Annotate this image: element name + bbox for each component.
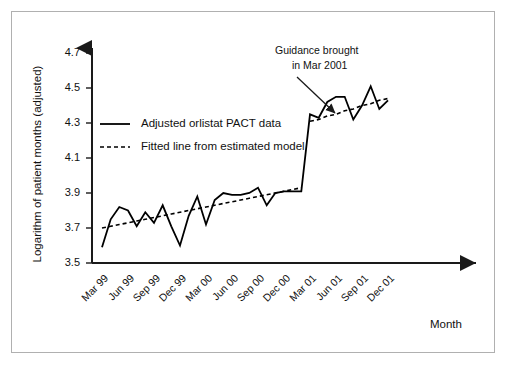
- y-tick-label: 4.3: [52, 116, 80, 128]
- legend-label-fitted: Fitted line from estimated model: [141, 140, 305, 152]
- chart-figure: Logarithm of patient months (adjusted) M…: [0, 0, 510, 367]
- y-tick-label: 3.5: [52, 256, 80, 268]
- guidance-annotation-line1: Guidance brought: [275, 44, 358, 56]
- guidance-annotation-line2: in Mar 2001: [292, 59, 347, 71]
- y-tick-label: 3.9: [52, 186, 80, 198]
- y-tick-label: 4.1: [52, 151, 80, 163]
- legend-label-observed: Adjusted orlistat PACT data: [141, 117, 281, 129]
- guidance-annotation-arrow: [297, 77, 335, 113]
- y-tick-label: 3.7: [52, 221, 80, 233]
- y-tick-label: 4.5: [52, 81, 80, 93]
- y-tick-label: 4.7: [52, 46, 80, 58]
